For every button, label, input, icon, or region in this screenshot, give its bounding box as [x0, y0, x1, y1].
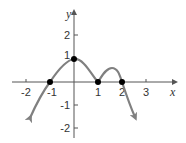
chart: -2 -1 1 2 3 2 1 -1 -2 y x	[0, 0, 186, 143]
x-tick-label: 3	[143, 86, 149, 98]
x-axis-label: x	[169, 85, 176, 99]
graph-svg: -2 -1 1 2 3 2 1 -1 -2 y x	[0, 0, 186, 143]
y-axis-label: y	[65, 7, 72, 21]
x-tick-label: -1	[47, 86, 57, 98]
y-tick-label: 1	[64, 49, 70, 61]
y-tick-label: -1	[60, 99, 70, 111]
x-tick-label: 1	[95, 86, 101, 98]
y-tick-label: 2	[64, 29, 70, 41]
y-tick-label: -2	[60, 122, 70, 134]
x-tick-label: -2	[21, 86, 31, 98]
